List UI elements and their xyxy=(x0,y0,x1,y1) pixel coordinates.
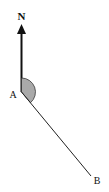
point-a-label: A xyxy=(9,89,17,100)
north-label: N xyxy=(18,10,26,22)
line-ab xyxy=(22,92,92,176)
bearing-angle-sector xyxy=(22,78,36,103)
arrowhead-icon xyxy=(17,24,26,34)
point-b-label: B xyxy=(94,175,101,186)
bearing-diagram: N A B xyxy=(0,0,109,192)
